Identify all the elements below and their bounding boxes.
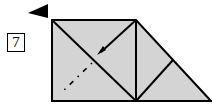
origami-diagram [0, 0, 212, 108]
paper-shape [52, 20, 211, 101]
direction-arrow-icon [28, 4, 48, 18]
step-number-badge: 7 [7, 33, 25, 52]
